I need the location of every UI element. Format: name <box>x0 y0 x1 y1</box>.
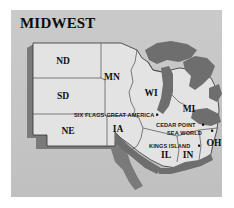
poi-dot-sea-world <box>211 130 213 132</box>
state-label-il: IL <box>161 150 171 160</box>
state-label-mi: MI <box>183 104 196 114</box>
state-label-ia: IA <box>113 124 124 134</box>
midwest-map: ND SD NE MN IA WI MI IL IN OH SIX FLAGS-… <box>11 10 222 197</box>
map-card-panel: MIDWEST <box>11 10 222 197</box>
state-label-sd: SD <box>57 91 69 101</box>
screenshot-root: MIDWEST <box>0 0 234 208</box>
state-label-ne: NE <box>61 126 74 136</box>
state-label-oh: OH <box>207 138 222 148</box>
poi-label-kings-island: KINGS ISLAND <box>149 143 190 149</box>
poi-label-sea-world: SEA WORLD <box>167 130 202 136</box>
poi-dot-six-flags-great-america <box>156 114 158 116</box>
poi-label-cedar-point: CEDAR POINT <box>156 122 196 128</box>
poi-label-six-flags-great-america: SIX FLAGS-GREAT AMERICA <box>74 112 154 118</box>
state-label-mn: MN <box>104 72 120 82</box>
map-svg: ND SD NE MN IA WI MI IL IN OH SIX FLAGS-… <box>11 10 222 197</box>
state-label-in: IN <box>183 150 194 160</box>
state-label-wi: WI <box>144 88 158 98</box>
poi-dot-kings-island <box>198 145 200 147</box>
poi-dot-cedar-point <box>202 124 204 126</box>
state-label-nd: ND <box>56 56 70 66</box>
